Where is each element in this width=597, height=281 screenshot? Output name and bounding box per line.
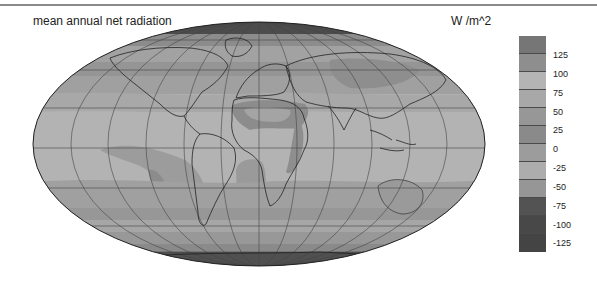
colorbar-tick-label: -75 bbox=[553, 201, 566, 211]
colorbar-tick-label: 75 bbox=[553, 88, 563, 98]
colorbar-tick-label: 0 bbox=[553, 144, 558, 154]
colorbar-tick-label: 125 bbox=[553, 50, 568, 60]
colorbar-segment bbox=[519, 180, 546, 198]
colorbar-tick-label: -125 bbox=[553, 238, 571, 248]
colorbar-segment bbox=[519, 216, 546, 234]
colorbar-segment bbox=[519, 126, 546, 144]
colorbar-segment bbox=[519, 144, 546, 162]
colorbar bbox=[519, 36, 546, 252]
colorbar-segment bbox=[519, 234, 546, 252]
colorbar-tick-label: -50 bbox=[553, 182, 566, 192]
colorbar-segment bbox=[519, 54, 546, 72]
colorbar-segment bbox=[519, 36, 546, 54]
colorbar-segment bbox=[519, 108, 546, 126]
colorbar-tick-label: 100 bbox=[553, 69, 568, 79]
colorbar-segment bbox=[519, 90, 546, 108]
colorbar-tick-label: 50 bbox=[553, 107, 563, 117]
world-map bbox=[0, 0, 597, 281]
colorbar-tick-label: -25 bbox=[553, 163, 566, 173]
colorbar-segment bbox=[519, 162, 546, 180]
colorbar-tick-label: 25 bbox=[553, 125, 563, 135]
colorbar-segment bbox=[519, 72, 546, 90]
colorbar-tick-label: -100 bbox=[553, 220, 571, 230]
colorbar-segment bbox=[519, 198, 546, 216]
